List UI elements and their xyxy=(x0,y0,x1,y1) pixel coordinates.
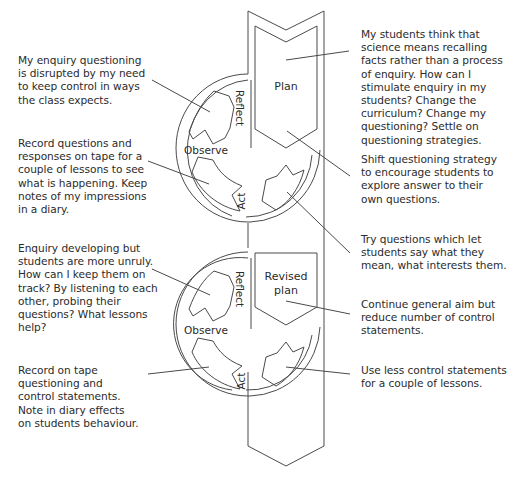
note-reflect-1: My enquiry questioning is disrupted by m… xyxy=(18,54,145,107)
reflect-label-1: Reflect xyxy=(234,90,246,126)
note-plan-2: Continue general aim but reduce number o… xyxy=(361,298,495,338)
observe-label-2: Observe xyxy=(184,324,228,336)
act-right-blob-2 xyxy=(262,342,304,386)
cycle-2-inner-arc xyxy=(246,335,312,390)
note-reflect-2: Enquiry developing but students are more… xyxy=(18,242,158,334)
observe-label-1: Observe xyxy=(184,144,228,156)
leader-reflect2 xyxy=(152,269,210,295)
act-right-blob-1 xyxy=(262,165,304,210)
note-act-1: Try questions which let students say wha… xyxy=(361,233,506,273)
leader-observe2 xyxy=(148,367,209,374)
leader-plan1b xyxy=(287,131,350,176)
note-observe-2: Record on tape questioning and control s… xyxy=(18,364,138,430)
act-label-2: Act xyxy=(235,373,247,390)
note-observe-1: Record questions and responses on tape f… xyxy=(18,137,147,216)
leader-act1 xyxy=(287,192,350,253)
leader-plan2 xyxy=(286,301,350,314)
act-label-1: Act xyxy=(235,193,247,210)
reflect-blob-2 xyxy=(189,271,234,321)
leader-act2 xyxy=(286,367,350,374)
plan-label-1: Plan xyxy=(274,80,297,93)
leader-reflect1 xyxy=(152,80,210,112)
note-plan-1b: Shift questioning strategy to encourage … xyxy=(361,153,497,206)
plan-label-2-line1: Revised xyxy=(265,270,308,283)
note-plan-1: My students think that science means rec… xyxy=(361,28,503,147)
leader-observe1 xyxy=(148,161,209,184)
plan-label-2-line2: plan xyxy=(274,284,298,297)
reflect-label-2: Reflect xyxy=(234,271,246,307)
note-act-2: Use less control statements for a couple… xyxy=(361,364,507,390)
reflect-blob-1 xyxy=(189,91,234,144)
